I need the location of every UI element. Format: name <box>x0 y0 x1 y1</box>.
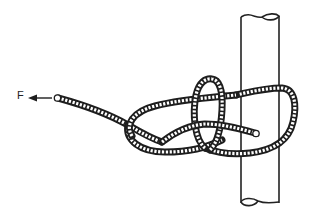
knot-diagram <box>0 0 312 218</box>
force-label: F <box>17 90 24 101</box>
pole <box>241 14 279 206</box>
force-arrow <box>28 95 52 102</box>
